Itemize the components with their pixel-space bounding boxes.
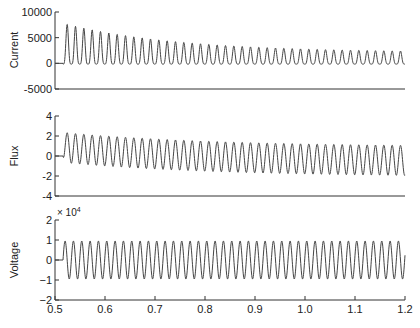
x-tick-label: 1.0 xyxy=(297,303,312,315)
y-tick-label: 4 xyxy=(46,110,52,122)
flux-panel: Flux -4-2024 xyxy=(8,110,405,202)
x-axis: 0.50.60.70.80.91.01.11.2 xyxy=(47,296,412,315)
y-tick-label: -2 xyxy=(42,170,52,182)
current-panel: Current -50000500010000 xyxy=(8,6,405,95)
x-tick-label: 0.6 xyxy=(97,303,112,315)
y-tick-label: -5000 xyxy=(24,83,52,95)
current-ylabel: Current xyxy=(8,32,20,69)
current-axes: -50000500010000 xyxy=(21,6,405,95)
voltage-trace xyxy=(55,241,405,279)
stacked-line-charts: Current -50000500010000 Flux -4-2024 Vol… xyxy=(0,0,420,328)
y-tick-label: 10000 xyxy=(21,6,52,18)
y-tick-label: 1 xyxy=(46,234,52,246)
y-tick-label: 5000 xyxy=(28,32,52,44)
voltage-ylabel: Voltage xyxy=(8,242,20,279)
y-tick-label: 0 xyxy=(46,150,52,162)
x-tick-label: 1.1 xyxy=(347,303,362,315)
x-tick-label: 0.8 xyxy=(197,303,212,315)
x-tick-label: 0.5 xyxy=(47,303,62,315)
current-trace xyxy=(55,24,405,64)
x-tick-label: 0.9 xyxy=(247,303,262,315)
y-tick-label: 2 xyxy=(46,130,52,142)
y-tick-label: 2 xyxy=(46,214,52,226)
voltage-panel: Voltage × 104 −2−1012 0.50.60.70.80.91.0… xyxy=(8,206,413,315)
flux-trace xyxy=(55,133,405,176)
y-tick-label: 0 xyxy=(46,57,52,69)
voltage-multiplier: × 104 xyxy=(57,206,81,218)
y-tick-label: 0 xyxy=(46,254,52,266)
y-tick-label: −1 xyxy=(39,274,52,286)
figure: Current -50000500010000 Flux -4-2024 Vol… xyxy=(0,0,420,328)
x-tick-label: 0.7 xyxy=(147,303,162,315)
x-tick-label: 1.2 xyxy=(397,303,412,315)
y-tick-label: -4 xyxy=(42,190,52,202)
flux-ylabel: Flux xyxy=(8,145,20,166)
